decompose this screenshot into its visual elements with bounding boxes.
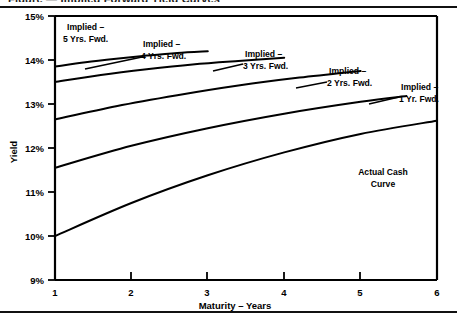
x-tick-3: 3: [204, 287, 209, 298]
curve-group: [55, 51, 437, 236]
label-implied-4yr-line2: 4 Yrs. Fwd.: [141, 51, 186, 61]
label-implied-3yr-line1: Implied –: [245, 49, 282, 59]
label-implied-1yr-line1: Implied –: [401, 82, 438, 92]
y-tick-12: 12%: [25, 143, 45, 154]
label-implied-2yr-line1: Implied –: [329, 66, 366, 76]
x-axis-title: Maturity – Years: [199, 300, 272, 311]
y-tick-11: 11%: [26, 187, 45, 198]
y-tick-13: 13%: [25, 99, 45, 110]
x-axis-ticks: [55, 272, 437, 280]
curve-4: [55, 96, 406, 168]
x-tick-4: 4: [281, 287, 287, 298]
y-tick-10: 10%: [25, 231, 45, 242]
y-tick-14: 14%: [25, 55, 45, 66]
figure-container: Figure — Implied Forward Yield Curves 15…: [0, 0, 457, 326]
label-implied-5yr-line1: Implied –: [67, 22, 104, 32]
y-axis-title: Yield: [8, 141, 19, 164]
label-implied-4yr-line1: Implied –: [143, 39, 180, 49]
label-implied-2yr-line2: 2 Yrs. Fwd.: [327, 78, 372, 88]
label-implied-5yr-line2: 5 Yrs. Fwd.: [63, 34, 108, 44]
yield-curve-chart: 15% 14% 13% 12% 11% 10% 9% 1 2 3 4 5 6 M…: [0, 0, 457, 326]
y-tick-15: 15%: [25, 11, 45, 22]
label-implied-1yr-line2: 1 Yr. Fwd.: [399, 94, 439, 104]
x-tick-2: 2: [128, 287, 133, 298]
x-axis-tick-labels: 1 2 3 4 5 6: [52, 287, 439, 298]
label-actual-cash-line2: Curve: [371, 179, 396, 189]
y-tick-9: 9%: [30, 275, 44, 286]
curve-3: [55, 71, 361, 119]
label-implied-3yr-line2: 3 Yrs. Fwd.: [243, 61, 288, 71]
y-axis-tick-labels: 15% 14% 13% 12% 11% 10% 9%: [25, 11, 45, 286]
x-tick-5: 5: [357, 287, 363, 298]
x-tick-6: 6: [434, 287, 439, 298]
x-tick-1: 1: [52, 287, 58, 298]
label-actual-cash-line1: Actual Cash: [358, 167, 408, 177]
